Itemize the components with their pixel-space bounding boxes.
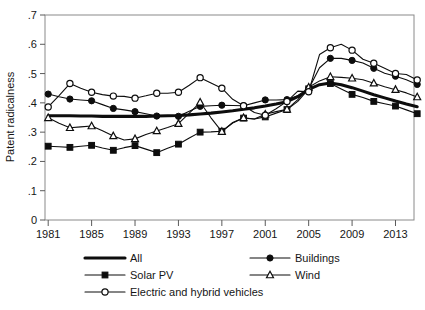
y-tick-label: .1 xyxy=(28,185,37,197)
series-path xyxy=(48,58,417,116)
data-point xyxy=(414,77,420,83)
y-tick-label: .6 xyxy=(28,38,37,50)
legend-label: Wind xyxy=(295,269,320,281)
data-point xyxy=(349,47,355,53)
y-tick-label: .2 xyxy=(28,155,37,167)
data-point xyxy=(197,75,203,81)
x-tick-label: 2013 xyxy=(383,228,407,240)
data-point xyxy=(176,141,182,147)
x-tick-label: 2005 xyxy=(296,228,320,240)
x-tick-label: 2009 xyxy=(340,228,364,240)
data-point xyxy=(349,57,355,63)
x-tick-label: 2001 xyxy=(253,228,277,240)
data-point xyxy=(262,112,268,118)
series-layer xyxy=(45,44,421,155)
y-tick-label: .7 xyxy=(28,9,37,21)
legend-item-solar-pv: Solar PV xyxy=(85,269,174,281)
x-tick-label: 1985 xyxy=(79,228,103,240)
legend-item-all: All xyxy=(85,252,142,264)
data-point xyxy=(45,91,51,97)
series-electric-and-hybrid-vehicles xyxy=(45,44,420,118)
series-wind xyxy=(45,73,421,142)
data-point xyxy=(175,89,181,95)
data-point xyxy=(327,55,333,61)
data-point xyxy=(88,122,95,129)
y-axis-label: Patent radicalness xyxy=(4,71,16,162)
data-point xyxy=(154,150,160,156)
data-point xyxy=(197,129,203,135)
data-point xyxy=(132,109,138,115)
y-tick-label: .4 xyxy=(28,97,37,109)
data-point xyxy=(219,85,225,91)
data-point xyxy=(110,93,116,99)
line-chart: 0.1.2.3.4.5.6.7 198119851989199319972001… xyxy=(0,0,425,310)
legend-item-buildings: Buildings xyxy=(250,252,340,264)
legend-item-wind: Wind xyxy=(250,269,320,281)
data-point xyxy=(240,103,246,109)
data-point xyxy=(110,132,117,139)
data-point xyxy=(89,98,95,104)
data-point xyxy=(414,111,420,117)
data-point xyxy=(45,104,51,110)
data-point xyxy=(327,73,334,80)
x-tick-label: 1997 xyxy=(210,228,234,240)
data-point xyxy=(154,113,160,119)
chart-figure: 0.1.2.3.4.5.6.7 198119851989199319972001… xyxy=(0,0,425,310)
data-point xyxy=(110,147,116,153)
data-point xyxy=(197,98,204,105)
y-tick-label: 0 xyxy=(31,214,37,226)
data-point xyxy=(89,89,95,95)
x-tick-label: 1981 xyxy=(36,228,60,240)
y-tick-label: .5 xyxy=(28,68,37,80)
data-point xyxy=(327,81,333,87)
data-point xyxy=(67,144,73,150)
y-axis: 0.1.2.3.4.5.6.7 xyxy=(28,9,45,226)
data-point xyxy=(89,142,95,148)
legend-item-electric-and-hybrid-vehicles: Electric and hybrid vehicles xyxy=(85,286,264,298)
data-point xyxy=(154,90,160,96)
series-path xyxy=(48,77,417,140)
data-point xyxy=(132,95,138,101)
x-axis: 198119851989199319972001200520092013 xyxy=(36,220,408,240)
data-point xyxy=(393,103,399,109)
data-point xyxy=(175,113,181,119)
data-point xyxy=(45,143,51,149)
legend-label: All xyxy=(130,252,142,264)
series-path xyxy=(48,84,417,153)
chart-legend: AllBuildingsSolar PVWindElectric and hyb… xyxy=(85,252,340,298)
data-point xyxy=(392,70,398,76)
legend-marker xyxy=(102,272,108,278)
legend-label: Solar PV xyxy=(130,269,174,281)
data-point xyxy=(132,143,138,149)
x-tick-label: 1993 xyxy=(166,228,190,240)
data-point xyxy=(110,105,116,111)
data-point xyxy=(67,96,73,102)
data-point xyxy=(371,98,377,104)
x-tick-label: 1989 xyxy=(123,228,147,240)
data-point xyxy=(371,60,377,66)
legend-marker xyxy=(267,255,273,261)
data-point xyxy=(306,89,312,95)
data-point xyxy=(67,80,73,86)
legend-label: Buildings xyxy=(295,252,340,264)
legend-marker xyxy=(102,289,108,295)
data-point xyxy=(327,45,333,51)
data-point xyxy=(262,97,268,103)
legend-label: Electric and hybrid vehicles xyxy=(130,286,264,298)
data-point xyxy=(219,102,225,108)
data-point xyxy=(349,91,355,97)
y-tick-label: .3 xyxy=(28,126,37,138)
data-point xyxy=(284,98,290,104)
